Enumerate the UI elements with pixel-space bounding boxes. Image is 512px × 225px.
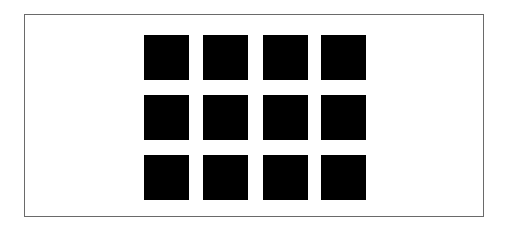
black-square-r3-c4 [321, 155, 366, 200]
black-square-r2-c4 [321, 95, 366, 140]
black-square-r3-c2 [203, 155, 248, 200]
black-square-r1-c3 [263, 35, 308, 80]
black-square-r2-c3 [263, 95, 308, 140]
black-square-r2-c2 [203, 95, 248, 140]
black-square-r3-c1 [144, 155, 189, 200]
black-square-r2-c1 [144, 95, 189, 140]
black-square-r3-c3 [263, 155, 308, 200]
black-square-r1-c4 [321, 35, 366, 80]
black-square-r1-c1 [144, 35, 189, 80]
diagram-frame [24, 14, 484, 217]
black-square-r1-c2 [203, 35, 248, 80]
